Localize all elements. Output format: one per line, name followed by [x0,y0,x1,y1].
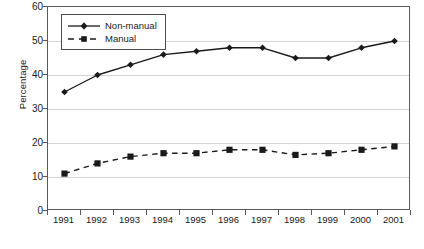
data-point-marker [391,143,397,149]
data-point-marker [226,45,233,52]
data-point-marker [193,48,200,55]
x-axis-tick-label: 1991 [53,214,74,225]
data-point-marker [94,72,101,79]
data-point-marker [127,154,133,160]
x-axis-tick-label: 1994 [152,214,173,225]
data-point-marker [193,150,199,156]
data-point-marker [292,152,298,158]
legend-swatch-non-manual [67,20,101,32]
x-axis-tick-mark [47,210,48,215]
x-axis-tick-mark [245,210,246,215]
plot-area: Non-manual Manual [47,6,410,210]
figure-caption [6,242,418,249]
x-axis-tick-mark [179,210,180,215]
legend-item: Non-manual [67,19,157,32]
x-axis-tick-label: 1995 [185,214,206,225]
data-point-marker [391,38,398,45]
y-axis-title: Percentage [17,30,28,140]
x-axis-tick-mark [80,210,81,215]
x-axis-tick-mark [410,210,411,215]
data-point-marker [259,147,265,153]
x-axis-tick-mark [311,210,312,215]
y-axis-tick-label: 50 [13,35,43,46]
data-point-marker [160,51,167,58]
x-axis-tick-label: 1998 [284,214,305,225]
legend-label-non-manual: Non-manual [105,20,157,32]
x-axis-tick-label: 2001 [383,214,404,225]
data-point-marker [61,89,68,96]
y-axis-tick-label: 10 [13,171,43,182]
x-axis-tick-mark [278,210,279,215]
data-point-marker [325,55,332,62]
data-point-marker [259,45,266,52]
x-axis-tick-mark [113,210,114,215]
data-point-marker [127,62,134,69]
x-axis-tick-mark [212,210,213,215]
data-point-marker [94,160,100,166]
y-axis-tick-label: 60 [13,1,43,12]
x-axis-tick-label: 1997 [251,214,272,225]
x-axis-tick-mark [344,210,345,215]
y-axis-tick-label: 30 [13,103,43,114]
y-axis-tick-label: 0 [13,205,43,216]
x-axis-tick-mark [377,210,378,215]
legend-swatch-manual [67,33,101,45]
x-axis-tick-label: 1992 [86,214,107,225]
data-point-marker [61,171,67,177]
series-manual [61,143,397,176]
data-point-marker [226,147,232,153]
legend: Non-manual Manual [61,14,166,50]
data-point-marker [292,55,299,62]
x-axis-tick-label: 1993 [119,214,140,225]
x-axis-tick-label: 1999 [317,214,338,225]
legend-item: Manual [67,32,157,45]
data-point-marker [358,147,364,153]
data-point-marker [325,150,331,156]
data-point-marker [358,45,365,52]
figure: Percentage 0102030405060 Non-manual Manu… [0,0,424,249]
x-axis-tick-label: 1996 [218,214,239,225]
y-axis-tick-label: 20 [13,137,43,148]
x-axis-tick-mark [146,210,147,215]
legend-label-manual: Manual [105,33,136,45]
y-axis-tick-label: 40 [13,69,43,80]
x-axis-tick-label: 2000 [350,214,371,225]
data-point-marker [160,150,166,156]
